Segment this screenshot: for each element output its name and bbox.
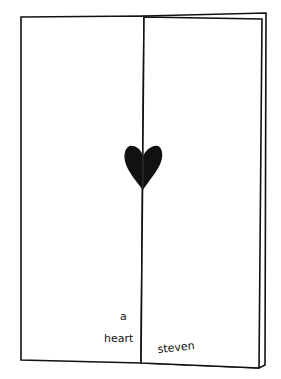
text-heart: heart — [104, 332, 134, 345]
card-illustration: a heart steven — [0, 0, 281, 379]
text-a: a — [120, 310, 127, 323]
front-page — [141, 17, 262, 368]
